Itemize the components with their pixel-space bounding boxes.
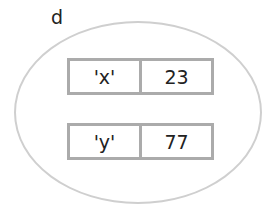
entry-value: 77 — [142, 126, 211, 157]
entry-value: 23 — [142, 61, 211, 92]
entry-key: 'y' — [70, 126, 142, 157]
dict-label: d — [51, 8, 63, 27]
dict-entry-y: 'y' 77 — [67, 123, 214, 160]
dict-entry-x: 'x' 23 — [67, 58, 214, 95]
entry-key: 'x' — [70, 61, 142, 92]
dict-ellipse — [14, 21, 262, 204]
